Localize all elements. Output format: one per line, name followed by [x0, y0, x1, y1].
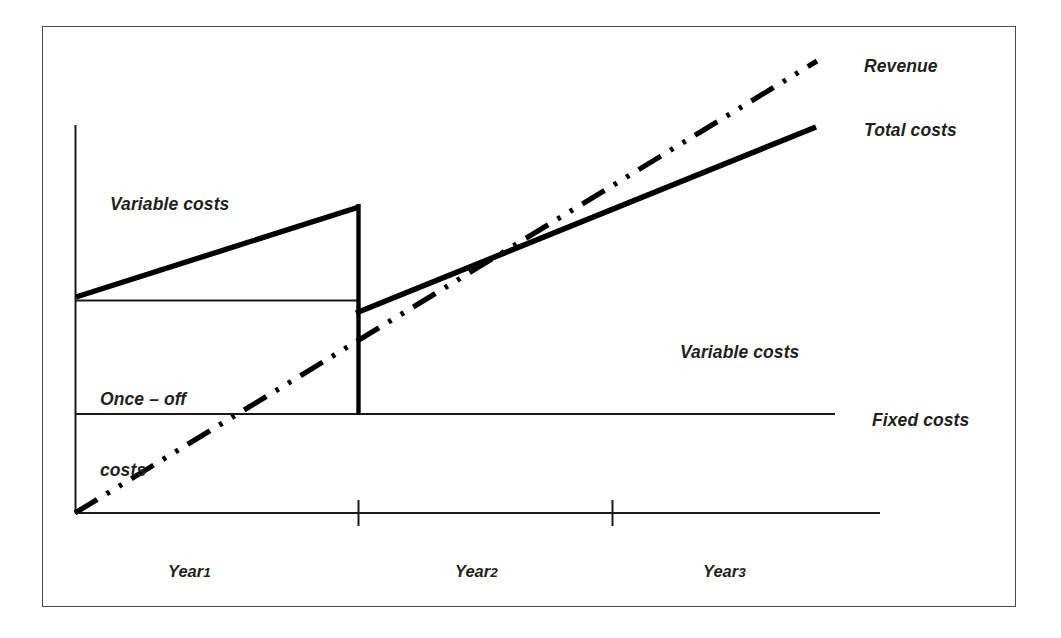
x-axis-label-year-3-number: 3 [738, 565, 746, 580]
chart-page: Variable costs Once – off costs Variable… [0, 0, 1061, 638]
chart-frame-border [42, 26, 1016, 607]
x-axis-label-year-1: Year1 [168, 562, 211, 581]
x-axis-label-year-2: Year2 [455, 562, 498, 581]
label-once-off-costs: Once – off costs [100, 341, 186, 530]
x-axis-label-year-2-number: 2 [490, 565, 498, 580]
x-axis-label-year-1-number: 1 [203, 565, 211, 580]
label-variable-costs-year1: Variable costs [110, 193, 229, 215]
label-fixed-costs: Fixed costs [872, 409, 969, 431]
label-revenue: Revenue [864, 55, 938, 77]
x-axis-label-year-3-word: Year [703, 562, 738, 580]
x-axis-label-year-3: Year3 [703, 562, 746, 581]
label-once-off-costs-line2: costs [100, 459, 186, 483]
x-axis-label-year-2-word: Year [455, 562, 490, 580]
label-once-off-costs-line1: Once – off [100, 388, 186, 412]
x-axis-label-year-1-word: Year [168, 562, 203, 580]
label-variable-costs-year23: Variable costs [680, 341, 799, 363]
label-total-costs: Total costs [864, 119, 957, 141]
